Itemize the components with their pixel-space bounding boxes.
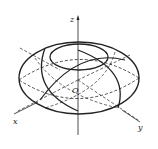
- origin-label: O: [72, 86, 79, 95]
- z-axis: [77, 15, 80, 135]
- ellipsoid-outline: [19, 42, 139, 114]
- y-axis-label: y: [137, 123, 143, 132]
- x-axis: [14, 48, 78, 114]
- x-axis-label: x: [13, 117, 18, 126]
- ellipsoid-diagram: z x y O: [0, 0, 158, 149]
- top-section-ring: [50, 44, 108, 70]
- meridian-xz-front: [41, 48, 78, 111]
- z-axis-label: z: [69, 15, 75, 24]
